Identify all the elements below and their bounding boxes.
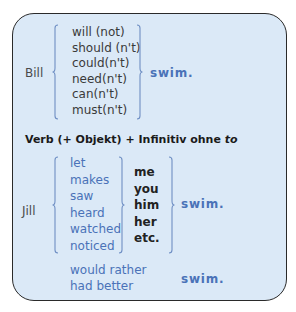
infinitive-swim-3: swim. — [181, 272, 224, 286]
left-brace-modals-icon — [52, 24, 58, 120]
verb-item: let — [70, 155, 121, 172]
object-item: you — [134, 181, 160, 198]
modal-item: will (not) — [72, 25, 141, 41]
right-brace-modals-icon — [136, 24, 142, 120]
right-brace-objects-icon — [168, 156, 174, 254]
object-item: him — [134, 197, 160, 214]
infinitive-swim-1: swim. — [150, 66, 193, 80]
verb-item: saw — [70, 188, 121, 205]
middle-brace-icon — [118, 156, 124, 254]
object-item: etc. — [134, 230, 160, 247]
phrase-item: would rather — [70, 262, 146, 278]
object-pronoun-list: me you him her etc. — [134, 164, 160, 247]
modal-item: need(n't) — [72, 72, 141, 88]
modal-item: can(n't) — [72, 87, 141, 103]
verb-item: noticed — [70, 238, 121, 255]
infinitive-swim-2: swim. — [181, 197, 224, 211]
subject-jill: Jill — [22, 204, 36, 218]
verb-item: watched — [70, 221, 121, 238]
rule-heading-text: Verb (+ Objekt) + Infinitiv ohne — [25, 133, 225, 146]
modal-list: will (not) should (n't) could(n't) need(… — [72, 25, 141, 118]
modal-item: could(n't) — [72, 56, 141, 72]
verb-item: makes — [70, 172, 121, 189]
rule-heading: Verb (+ Objekt) + Infinitiv ohne to — [25, 133, 238, 146]
left-brace-verbs-icon — [52, 156, 58, 254]
verb-list: let makes saw heard watched noticed — [70, 155, 121, 255]
rule-heading-italic: to — [225, 133, 238, 146]
modal-item: must(n't) — [72, 103, 141, 119]
verb-item: heard — [70, 205, 121, 222]
subject-bill: Bill — [25, 66, 43, 80]
object-item: her — [134, 214, 160, 231]
modal-item: should (n't) — [72, 41, 141, 57]
object-item: me — [134, 164, 160, 181]
phrase-list: would rather had better — [70, 262, 146, 294]
phrase-item: had better — [70, 278, 146, 294]
